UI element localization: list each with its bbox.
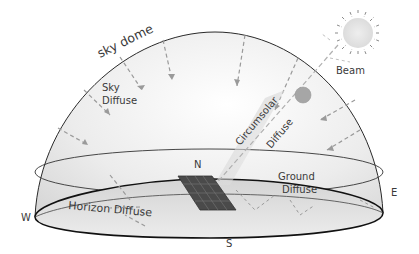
- compass-south: S: [226, 238, 232, 249]
- sky-radiation-diagram: sky dome Sky Diffuse Beam Circumsolar Di…: [0, 0, 419, 254]
- compass-east: E: [391, 187, 397, 198]
- beam-label: Beam: [336, 65, 365, 76]
- compass-west: W: [21, 212, 31, 223]
- compass-north: N: [194, 159, 201, 170]
- ground-diffuse-label-line1: Ground: [278, 171, 315, 182]
- sky-diffuse-label-line2: Diffuse: [102, 95, 137, 106]
- circumsolar-disc: [295, 87, 311, 103]
- sky-diffuse-label-line1: Sky: [102, 82, 120, 93]
- ground-diffuse-label-line2: Diffuse: [282, 184, 317, 195]
- sun-icon: [335, 10, 381, 56]
